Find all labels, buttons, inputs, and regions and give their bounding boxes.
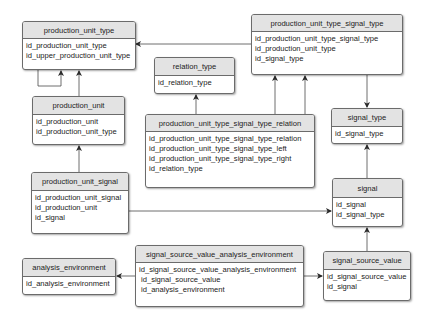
field: id_production_unit_type: [26, 41, 132, 51]
entity-title: production_unit_type: [23, 22, 135, 39]
entity-fields: id_signal_type: [332, 127, 402, 141]
entity-production-unit-type[interactable]: production_unit_type id_production_unit_…: [22, 21, 136, 70]
entity-relation-type[interactable]: relation_type id_relation_type: [154, 57, 235, 94]
field: id_relation_type: [158, 78, 231, 88]
field: id_production_unit: [35, 203, 125, 213]
entity-title: relation_type: [155, 58, 234, 76]
entity-signal-source-value[interactable]: signal_source_value id_signal_source_val…: [323, 251, 411, 301]
field: id_production_unit_type: [36, 127, 121, 137]
entity-fields: id_signal_source_value_analysis_environm…: [136, 263, 303, 297]
field: id_analysis_environment: [26, 279, 112, 289]
field: id_production_unit_type_signal_type_righ…: [149, 154, 311, 164]
entity-production-unit-type-signal-type-relation[interactable]: production_unit_type_signal_type_relatio…: [145, 114, 315, 188]
field: id_signal: [327, 282, 407, 292]
field: id_production_unit_type_signal_type: [255, 34, 399, 44]
entity-title: production_unit: [33, 97, 124, 115]
entity-fields: id_signal_source_value id_signal: [324, 270, 410, 294]
field: id_analysis_environment: [139, 285, 300, 295]
entity-signal-source-value-analysis-environment[interactable]: signal_source_value_analysis_environment…: [135, 245, 304, 307]
field: id_signal_source_value_analysis_environm…: [139, 265, 300, 275]
entity-production-unit-type-signal-type[interactable]: production_unit_type_signal_type id_prod…: [251, 14, 403, 75]
field: id_production_unit_signal: [35, 193, 125, 203]
field: id_production_unit_type: [255, 44, 399, 54]
entity-title: production_unit_type_signal_type_relatio…: [146, 115, 314, 132]
field: id_relation_type: [149, 164, 311, 174]
entity-title: production_unit_signal: [32, 173, 128, 191]
entity-title: signal_source_value_analysis_environment: [136, 246, 303, 263]
entity-fields: id_production_unit_type id_upper_product…: [23, 39, 135, 63]
field: id_production_unit_type_signal_type_rela…: [149, 134, 311, 144]
entity-signal-type[interactable]: signal_type id_signal_type: [331, 108, 403, 144]
entity-fields: id_production_unit_type_signal_type id_p…: [252, 32, 402, 66]
entity-title: signal_source_value: [324, 252, 410, 270]
entity-title: production_unit_type_signal_type: [252, 15, 402, 32]
field: id_production_unit: [36, 117, 121, 127]
entity-fields: id_production_unit id_production_unit_ty…: [33, 115, 124, 139]
entity-title: analysis_environment: [23, 259, 115, 277]
field: id_signal_source_value: [139, 275, 300, 285]
field: id_production_unit_type_signal_type_left: [149, 144, 311, 154]
entity-fields: id_analysis_environment: [23, 277, 115, 291]
entity-signal[interactable]: signal id_signal id_signal_type: [332, 178, 403, 227]
entity-fields: id_signal id_signal_type: [333, 198, 402, 222]
entity-fields: id_relation_type: [155, 76, 234, 90]
entity-fields: id_production_unit_type_signal_type_rela…: [146, 132, 314, 176]
entity-analysis-environment[interactable]: analysis_environment id_analysis_environ…: [22, 258, 116, 295]
field: id_upper_production_unit_type: [26, 51, 132, 61]
er-diagram: production_unit_type id_production_unit_…: [0, 0, 434, 323]
field: id_signal: [336, 200, 399, 210]
field: id_signal_type: [255, 54, 399, 64]
field: id_signal_type: [336, 210, 399, 220]
field: id_signal_source_value: [327, 272, 407, 282]
field: id_signal: [35, 213, 125, 223]
link-production-unit-type-self: [38, 70, 61, 86]
field: id_signal_type: [335, 129, 399, 139]
entity-production-unit[interactable]: production_unit id_production_unit id_pr…: [32, 96, 125, 145]
entity-production-unit-signal[interactable]: production_unit_signal id_production_uni…: [31, 172, 129, 234]
entity-title: signal: [333, 179, 402, 198]
entity-fields: id_production_unit_signal id_production_…: [32, 191, 128, 225]
entity-title: signal_type: [332, 109, 402, 127]
